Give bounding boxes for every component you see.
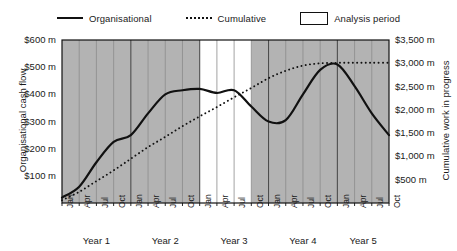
y-axis-right-tick: $3,500 m — [395, 34, 455, 45]
x-axis-tick: Jan — [65, 194, 75, 208]
x-axis-tick: Jul — [168, 197, 178, 208]
x-axis-tick: Jul — [237, 197, 247, 208]
x-axis-tick: Oct — [323, 195, 333, 208]
x-axis-tick: Apr — [358, 195, 368, 208]
y-axis-left-tick: $200 m — [0, 143, 56, 154]
y-axis-right-tick: $3,000 m — [395, 57, 455, 68]
x-axis-tick: Jan — [203, 194, 213, 208]
x-axis-tick: Jan — [272, 194, 282, 208]
x-axis-tick: Apr — [82, 195, 92, 208]
plot-area — [0, 0, 457, 251]
white-rectangle-icon — [300, 12, 328, 25]
y-axis-left-tick: $400 m — [0, 88, 56, 99]
x-axis-year-label: Year 2 — [131, 235, 200, 246]
y-axis-right-tick: $500 m — [395, 174, 455, 185]
x-axis-year-label: Year 3 — [200, 235, 269, 246]
x-axis-tick: Oct — [186, 195, 196, 208]
x-axis-tick: Jan — [341, 194, 351, 208]
x-axis-year-label: Year 4 — [269, 235, 338, 246]
y-axis-left-tick: $100 m — [0, 170, 56, 181]
x-axis-tick: Oct — [392, 195, 402, 208]
chart-legend: Organisational Cumulative Analysis perio… — [0, 8, 457, 28]
legend-label-organisational: Organisational — [89, 13, 152, 24]
y-axis-right-tick: $2,500 m — [395, 81, 455, 92]
legend-item-analysis-period: Analysis period — [300, 12, 400, 25]
x-axis-tick: Oct — [255, 195, 265, 208]
x-axis-year-label: Year 5 — [337, 235, 389, 246]
y-axis-right-tick: $1,000 m — [395, 150, 455, 161]
y-axis-left-tick: $600 m — [0, 34, 56, 45]
y-axis-right-tick: $2,000 m — [395, 104, 455, 115]
legend-item-organisational: Organisational — [57, 13, 152, 24]
x-axis-tick: Jan — [134, 194, 144, 208]
cash-flow-chart: Organisational Cumulative Analysis perio… — [0, 0, 457, 251]
y-axis-right-tick: $1,500 m — [395, 127, 455, 138]
x-axis-tick: Jul — [306, 197, 316, 208]
legend-label-cumulative: Cumulative — [218, 13, 267, 24]
legend-label-analysis-period: Analysis period — [334, 13, 400, 24]
dotted-line-icon — [186, 17, 212, 19]
x-axis-tick: Jul — [375, 197, 385, 208]
x-axis-tick: Jul — [100, 197, 110, 208]
y-axis-left-tick: $500 m — [0, 61, 56, 72]
legend-item-cumulative: Cumulative — [186, 13, 267, 24]
x-axis-tick: Apr — [220, 195, 230, 208]
solid-line-icon — [57, 17, 83, 19]
x-axis-year-label: Year 1 — [62, 235, 131, 246]
x-axis-tick: Apr — [289, 195, 299, 208]
x-axis-tick: Apr — [151, 195, 161, 208]
x-axis-tick: Oct — [117, 195, 127, 208]
y-axis-left-tick: $300 m — [0, 116, 56, 127]
